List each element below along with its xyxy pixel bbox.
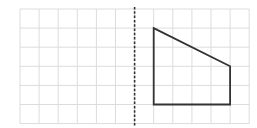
grid-diagram xyxy=(0,0,257,128)
